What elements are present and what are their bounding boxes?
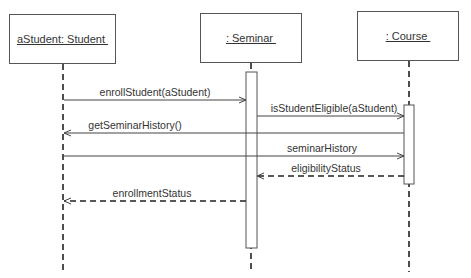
activation-bar-course: [404, 105, 414, 184]
arrowhead-icon: [64, 198, 71, 204]
message-label: enrollStudent(aStudent): [100, 86, 211, 98]
participant-label: aStudent: Student: [17, 33, 108, 45]
message-label: eligibilityStatus: [291, 162, 360, 174]
message-label: enrollmentStatus: [113, 187, 192, 199]
activation-bar-seminar: [246, 72, 257, 248]
participant-student: aStudent: Student: [9, 14, 116, 64]
participant-course: : Course: [357, 11, 459, 61]
message-label: seminarHistory: [287, 142, 357, 154]
participant-seminar: : Seminar: [200, 13, 302, 63]
message-label: getSeminarHistory(): [88, 119, 181, 131]
participant-label: : Course: [386, 30, 431, 42]
message-label: isStudentEligible(aStudent): [271, 102, 398, 114]
participant-label: : Seminar: [226, 32, 276, 44]
